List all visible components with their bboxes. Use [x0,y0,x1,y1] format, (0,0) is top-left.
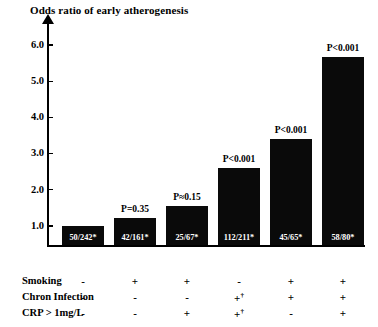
y-axis-tick-label: 3.0 [0,148,44,160]
table-cell: +† [209,308,269,320]
table-cell: - [53,308,113,319]
figure-odds-ratio-chart: Odds ratio of early atherogenesis 1.02.0… [0,0,378,327]
table-cell: - [209,276,269,287]
table-cell: - [105,308,165,319]
bar-count-label: 42/161* [105,234,165,242]
bar-pvalue-label: P<0.001 [202,155,276,165]
bar-pvalue-label: P=0.35 [98,205,172,215]
bar [322,57,364,245]
y-axis-tick-label: 4.0 [0,112,44,124]
y-axis-tick [47,189,53,190]
table-cell: + [157,308,217,319]
y-axis-tick [47,153,53,154]
y-axis-tick [47,225,53,226]
dagger-marker: † [240,307,244,315]
x-axis-line [47,245,365,247]
bar-count-label: 58/80* [313,234,373,242]
bar-count-label: 112/211* [209,234,269,242]
y-axis-tick [47,81,53,82]
bar-count-label: 50/242* [53,234,113,242]
y-axis-tick-label-text: 5.0 [4,76,44,87]
bar-pvalue-label: P<0.001 [306,44,378,54]
y-axis-tick-label-text: 2.0 [4,185,44,196]
y-axis-tick-label: 2.0 [0,185,44,197]
table-cell: - [157,292,217,303]
y-axis-tick-label-text: 3.0 [4,148,44,159]
y-axis-tick-label: 1.0 [0,221,44,233]
table-cell: + [261,276,321,287]
y-axis-tick-label-text: 6.0 [4,40,44,51]
y-axis-tick-label-text: 1.0 [4,221,44,232]
bar-pvalue-label: P<0.001 [254,126,328,136]
bar-count-label: 25/67* [157,234,217,242]
table-cell: - [53,292,113,303]
y-axis-line [47,22,49,246]
bar-count-label: 45/65* [261,234,321,242]
y-axis-tick-label: 6.0 [0,40,44,52]
table-cell: + [157,276,217,287]
plot-area: 1.02.03.04.05.06.0 50/242*42/161*P=0.352… [0,0,378,270]
condition-table: Smoking-++-++Chron Infection---+†++CRP >… [0,272,378,327]
table-cell: - [53,276,113,287]
table-cell: + [105,276,165,287]
bar-pvalue-label: P≈0.15 [150,193,224,203]
table-cell: + [313,292,373,303]
y-axis-tick-label-text: 4.0 [4,112,44,123]
y-axis-tick [47,44,53,45]
bar [270,139,312,245]
y-axis-tick-label: 5.0 [0,76,44,88]
table-cell: - [105,292,165,303]
table-cell: + [261,292,321,303]
dagger-marker: † [240,291,244,299]
table-cell: + [313,276,373,287]
table-cell: + [313,308,373,319]
y-axis-tick [47,117,53,118]
table-cell: +† [209,292,269,304]
table-cell: - [261,308,321,319]
